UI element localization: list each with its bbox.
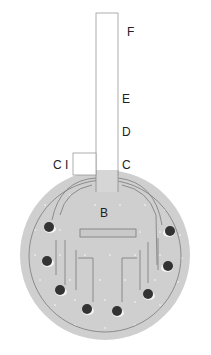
label-f: F [127, 25, 134, 39]
label-c1: C I [53, 158, 68, 172]
label-e: E [122, 92, 130, 106]
label-b: B [100, 206, 108, 220]
label-d: D [122, 125, 131, 139]
c1-side-box [73, 153, 96, 175]
stem-tube [96, 13, 118, 175]
base-disc [20, 170, 190, 340]
label-c: C [122, 158, 131, 172]
diagram-canvas: F E D C C I B [0, 0, 211, 355]
chamber-bar [80, 229, 136, 237]
stem-base [96, 170, 118, 192]
